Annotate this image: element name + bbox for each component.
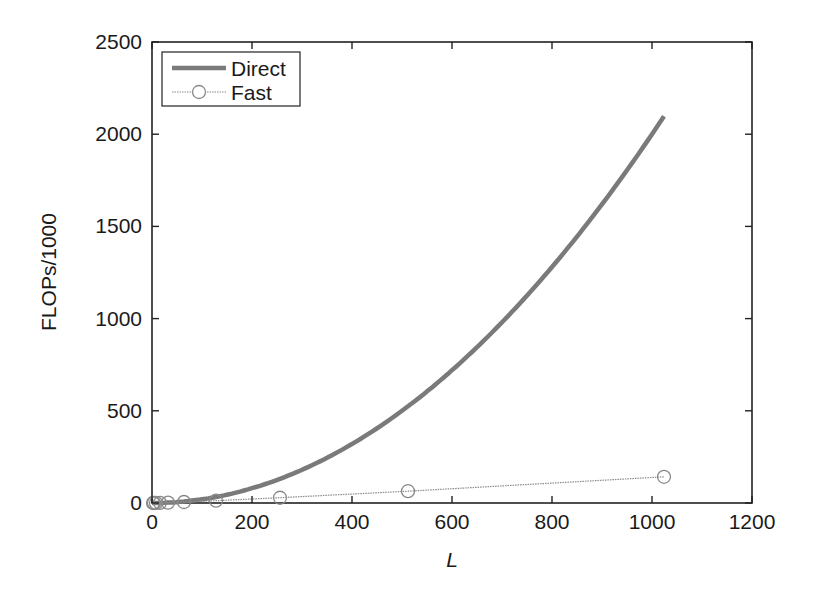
series-fast-marker — [658, 470, 671, 483]
x-tick-label: 600 — [434, 510, 469, 533]
x-tick-label: 200 — [234, 510, 269, 533]
x-tick-label: 1000 — [629, 510, 676, 533]
legend: DirectFast — [162, 52, 300, 106]
y-tick-label: 2000 — [95, 122, 142, 145]
x-tick-label: 0 — [146, 510, 158, 533]
plot-border — [152, 42, 752, 503]
x-tick-label: 1200 — [729, 510, 776, 533]
x-tick-label: 400 — [334, 510, 369, 533]
y-tick-label: 2500 — [95, 30, 142, 53]
legend-direct-label: Direct — [231, 57, 286, 80]
series-layer — [147, 116, 671, 509]
y-tick-label: 0 — [130, 491, 142, 514]
y-tick-label: 500 — [107, 399, 142, 422]
x-tick-label: 800 — [534, 510, 569, 533]
flops-chart: 0200400600800100012000500100015002000250… — [0, 0, 815, 592]
legend-fast-marker — [193, 86, 206, 99]
series-direct-line — [152, 116, 664, 503]
y-tick-label: 1500 — [95, 214, 142, 237]
legend-fast-label: Fast — [231, 81, 272, 104]
plot-area — [152, 42, 752, 503]
series-fast-line — [153, 477, 664, 503]
y-axis-title: FLOPs/1000 — [37, 213, 60, 331]
y-tick-label: 1000 — [95, 307, 142, 330]
x-axis-title: L — [446, 548, 458, 571]
